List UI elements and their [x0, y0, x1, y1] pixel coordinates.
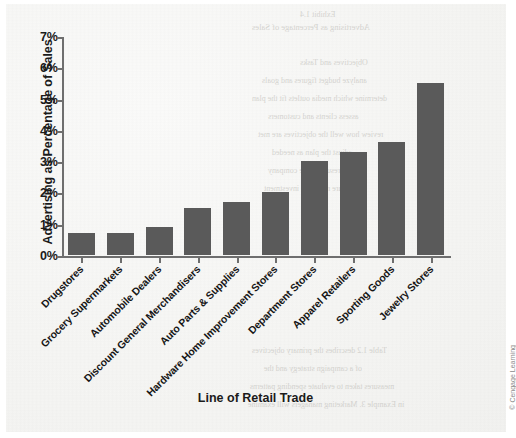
y-axis-line — [62, 37, 64, 258]
plot-area — [62, 37, 450, 257]
y-axis-tick-label: 0% — [14, 250, 58, 263]
bar — [417, 83, 444, 255]
bar — [146, 227, 173, 255]
y-axis-tick-label: 3% — [14, 156, 58, 169]
y-axis-tick — [57, 131, 62, 133]
bar — [68, 233, 95, 255]
y-axis-tick-label: 5% — [14, 93, 58, 106]
y-axis-tick-label: 6% — [14, 62, 58, 75]
y-axis-tick — [57, 68, 62, 70]
x-axis-tick-labels: DrugstoresGrocery SupermarketsAutomobile… — [62, 257, 462, 397]
bar — [184, 208, 211, 255]
y-axis-tick — [57, 100, 62, 102]
bar — [378, 142, 405, 255]
y-axis-tick-labels: 0%1%2%3%4%5%6%7% — [10, 0, 58, 438]
y-axis-tick-label: 2% — [14, 187, 58, 200]
bar — [301, 161, 328, 255]
y-axis-tick — [57, 193, 62, 195]
copyright-credit: © Cengage Learning — [509, 345, 516, 410]
bar — [340, 152, 367, 255]
x-axis-title: Line of Retail Trade — [0, 391, 511, 405]
y-axis-tick-label: 1% — [14, 218, 58, 231]
x-axis-tick-label: Department Stores — [245, 263, 318, 336]
y-axis-tick — [57, 162, 62, 164]
y-axis-tick-label: 4% — [14, 125, 58, 138]
y-axis-tick-label: 7% — [14, 31, 58, 44]
bar — [107, 233, 134, 255]
y-axis-tick — [57, 225, 62, 227]
bar — [262, 192, 289, 255]
x-axis-tick-label: Automobile Dealers — [87, 263, 163, 339]
y-axis-tick — [57, 37, 62, 39]
bar — [223, 202, 250, 255]
